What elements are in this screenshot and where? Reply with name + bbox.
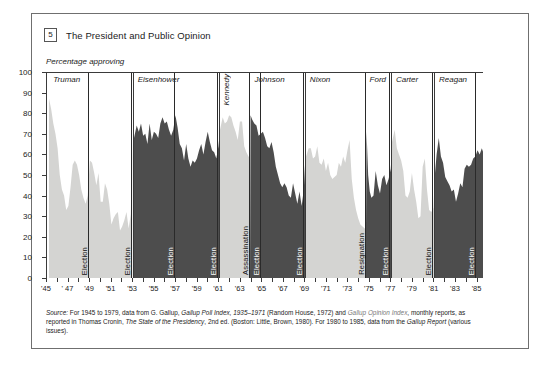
president-label-truman: Truman bbox=[53, 75, 80, 84]
x-tick-mark bbox=[401, 278, 402, 282]
approval-area-truman bbox=[49, 72, 132, 278]
x-tick-mark bbox=[175, 278, 176, 282]
x-tick-label: '63 bbox=[235, 284, 245, 293]
president-label-nixon: Nixon bbox=[310, 75, 330, 84]
president-panel-eisenhower: Eisenhower bbox=[133, 72, 219, 278]
figure-title-bar: 5 The President and Public Opinion bbox=[44, 28, 211, 42]
x-tick-mark bbox=[369, 278, 370, 282]
x-tick-mark bbox=[143, 278, 144, 282]
x-tick-mark bbox=[326, 278, 327, 282]
x-tick-label: '49 bbox=[84, 284, 94, 293]
event-label-election: Election bbox=[166, 247, 175, 275]
approval-area-nixon bbox=[306, 72, 365, 278]
x-tick-mark bbox=[455, 278, 456, 282]
y-tick-label: 40 bbox=[23, 191, 32, 200]
y-tick-label: 50 bbox=[23, 171, 32, 180]
y-tick-label: 70 bbox=[23, 129, 32, 138]
x-tick-mark bbox=[197, 278, 198, 282]
event-label-assassination: Assassination bbox=[241, 226, 250, 275]
x-tick-mark bbox=[121, 278, 122, 282]
y-tick-label: 60 bbox=[23, 150, 32, 159]
source-note: Source: For 1945 to 1979, data from G. G… bbox=[46, 308, 486, 335]
x-tick-mark bbox=[477, 278, 478, 282]
x-tick-mark bbox=[380, 278, 381, 282]
event-label-election: Election bbox=[123, 247, 132, 275]
x-axis: '45' 47'49'51'53'55'57'59'61'63'65'67'69… bbox=[46, 278, 483, 304]
event-label-election: Election bbox=[209, 247, 218, 275]
x-tick-mark bbox=[390, 278, 391, 282]
x-tick-label: '59 bbox=[192, 284, 202, 293]
x-tick-mark bbox=[89, 278, 90, 282]
x-tick-mark bbox=[46, 278, 47, 282]
president-label-carter: Carter bbox=[396, 75, 418, 84]
x-tick-mark bbox=[444, 278, 445, 282]
x-tick-mark bbox=[433, 278, 434, 282]
x-tick-label: '69 bbox=[299, 284, 309, 293]
y-tick-label: 100 bbox=[19, 68, 32, 77]
x-tick-mark bbox=[229, 278, 230, 282]
x-tick-label: '83 bbox=[450, 284, 460, 293]
x-tick-label: '77 bbox=[386, 284, 396, 293]
president-label-kennedy: Kennedy bbox=[222, 74, 231, 106]
x-tick-mark bbox=[111, 278, 112, 282]
x-tick-label: '67 bbox=[278, 284, 288, 293]
x-tick-mark bbox=[304, 278, 305, 282]
event-label-election: Election bbox=[381, 247, 390, 275]
x-tick-label: '81 bbox=[429, 284, 439, 293]
x-tick-label: '65 bbox=[256, 284, 266, 293]
x-tick-label: '75 bbox=[364, 284, 374, 293]
event-label-election: Election bbox=[467, 247, 476, 275]
page-title: The President and Public Opinion bbox=[66, 30, 211, 41]
y-tick-label: 30 bbox=[23, 212, 32, 221]
x-tick-mark bbox=[57, 278, 58, 282]
y-tick-label: 20 bbox=[23, 232, 32, 241]
y-tick-label: 80 bbox=[23, 109, 32, 118]
x-tick-mark bbox=[358, 278, 359, 282]
president-label-johnson: Johnson bbox=[254, 75, 284, 84]
event-label-election: Election bbox=[295, 247, 304, 275]
x-tick-mark bbox=[261, 278, 262, 282]
x-tick-mark bbox=[283, 278, 284, 282]
x-tick-mark bbox=[240, 278, 241, 282]
x-tick-mark bbox=[466, 278, 467, 282]
y-tick-label: 90 bbox=[23, 88, 32, 97]
x-tick-label: '79 bbox=[407, 284, 417, 293]
x-tick-mark bbox=[337, 278, 338, 282]
x-tick-mark bbox=[154, 278, 155, 282]
x-tick-mark bbox=[68, 278, 69, 282]
source-label: Source: bbox=[46, 309, 68, 316]
event-label-election: Election bbox=[80, 247, 89, 275]
y-axis-label: Percentage approving bbox=[46, 57, 124, 66]
event-label-resignation: Resignation bbox=[357, 233, 366, 275]
x-tick-mark bbox=[347, 278, 348, 282]
president-label-ford: Ford bbox=[370, 75, 386, 84]
y-tick-label: 0 bbox=[28, 274, 32, 283]
x-tick-mark bbox=[164, 278, 165, 282]
x-tick-mark bbox=[132, 278, 133, 282]
x-tick-mark bbox=[251, 278, 252, 282]
president-panel-nixon: Nixon bbox=[305, 72, 365, 278]
x-tick-label: '71 bbox=[321, 284, 331, 293]
x-tick-mark bbox=[78, 278, 79, 282]
event-label-election: Election bbox=[424, 247, 433, 275]
x-tick-label: '55 bbox=[149, 284, 159, 293]
x-tick-mark bbox=[294, 278, 295, 282]
y-tick-label: 10 bbox=[23, 253, 32, 262]
president-label-reagan: Reagan bbox=[439, 75, 467, 84]
x-tick-mark bbox=[412, 278, 413, 282]
x-tick-mark bbox=[218, 278, 219, 282]
x-tick-label: '73 bbox=[342, 284, 352, 293]
x-tick-mark bbox=[315, 278, 316, 282]
x-tick-label: '53 bbox=[127, 284, 137, 293]
x-tick-label: '61 bbox=[213, 284, 223, 293]
x-tick-label: '85 bbox=[472, 284, 482, 293]
x-tick-label: '45 bbox=[41, 284, 51, 293]
x-tick-label: ' 47 bbox=[62, 284, 74, 293]
y-axis: 0102030405060708090100 bbox=[0, 0, 46, 290]
x-tick-label: '57 bbox=[170, 284, 180, 293]
x-tick-mark bbox=[207, 278, 208, 282]
president-panel-truman: Truman bbox=[49, 72, 132, 278]
source-line-2: reported in Thomas Cronin, The State of … bbox=[46, 318, 471, 334]
x-tick-mark bbox=[100, 278, 101, 282]
chart-plot-area: TrumanEisenhowerKennedyJohnsonNixonFordC… bbox=[46, 72, 483, 278]
